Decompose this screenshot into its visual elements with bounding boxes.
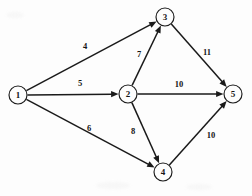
node-2[interactable]: 2 (119, 85, 137, 103)
node-label-2: 2 (126, 89, 131, 99)
node-label-1: 1 (16, 90, 21, 100)
edge-weight-4-5: 10 (207, 130, 216, 140)
edge-3-to-5 (171, 24, 226, 87)
node-label-4: 4 (161, 167, 166, 177)
network-diagram-figure: 12345 45671081110 (0, 0, 252, 196)
edge-weight-2-5: 10 (175, 79, 184, 89)
node-1[interactable]: 1 (9, 86, 27, 104)
edge-weight-2-4: 8 (131, 126, 135, 136)
edge-weight-1-4: 6 (87, 123, 91, 133)
edge-weight-3-5: 11 (203, 47, 211, 57)
node-4[interactable]: 4 (154, 163, 172, 181)
node-5[interactable]: 5 (224, 85, 242, 103)
edge-1-to-2 (28, 91, 119, 97)
arrowhead-icon (111, 91, 118, 97)
edge-2-to-5 (138, 91, 224, 97)
arrowhead-icon (216, 91, 223, 97)
edge-weight-1-3: 4 (83, 41, 88, 51)
edge-4-to-5 (169, 101, 226, 165)
edge-2-to-4 (132, 103, 159, 164)
node-3[interactable]: 3 (156, 8, 174, 26)
graph-canvas: 12345 45671081110 (0, 0, 252, 196)
edge-weight-2-3: 7 (137, 49, 142, 59)
edge-weight-1-2: 5 (78, 78, 82, 88)
node-label-3: 3 (163, 12, 168, 22)
node-label-5: 5 (231, 89, 236, 99)
